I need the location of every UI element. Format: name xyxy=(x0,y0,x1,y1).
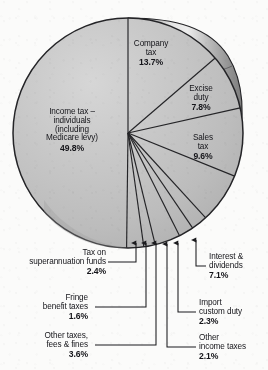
superannuation-pct: 2.4% xyxy=(4,267,106,276)
slice-label-sales-tax: Sales tax 9.6% xyxy=(178,134,228,161)
pie-chart-figure: Company tax 13.7% Excise duty 7.8% Sales… xyxy=(0,0,268,370)
slice-label-income-tax: Income tax – individuals (including Medi… xyxy=(28,108,116,153)
leader-other-income xyxy=(167,244,196,347)
sales-tax-pct: 9.6% xyxy=(178,152,228,161)
slice-label-company-tax: Company tax 13.7% xyxy=(120,40,182,67)
income-tax-line4: Medicare levy) xyxy=(28,134,116,143)
company-tax-pct: 13.7% xyxy=(120,58,182,67)
other-taxes-pct: 3.6% xyxy=(8,350,88,359)
slice-label-excise-duty: Excise duty 7.8% xyxy=(175,85,227,112)
callout-other-income: Other income taxes 2.1% xyxy=(199,334,267,361)
leader-interest xyxy=(196,240,206,266)
income-tax-pct: 49.8% xyxy=(28,144,116,153)
callout-import-duty: Import custom duty 2.3% xyxy=(199,299,267,326)
callout-leaders xyxy=(95,240,206,347)
other-income-pct: 2.1% xyxy=(199,352,267,361)
leader-import-duty xyxy=(178,243,196,312)
excise-duty-pct: 7.8% xyxy=(175,103,227,112)
callout-fringe-benefit: Fringe benefit taxes 1.6% xyxy=(8,294,88,321)
callout-superannuation: Tax on superannuation funds 2.4% xyxy=(4,249,106,276)
callout-interest-dividends: Interest & dividends 7.1% xyxy=(209,253,267,280)
interest-pct: 7.1% xyxy=(209,271,267,280)
fringe-pct: 1.6% xyxy=(8,312,88,321)
callout-other-taxes: Other taxes, fees & fines 3.6% xyxy=(8,332,88,359)
import-duty-pct: 2.3% xyxy=(199,317,267,326)
